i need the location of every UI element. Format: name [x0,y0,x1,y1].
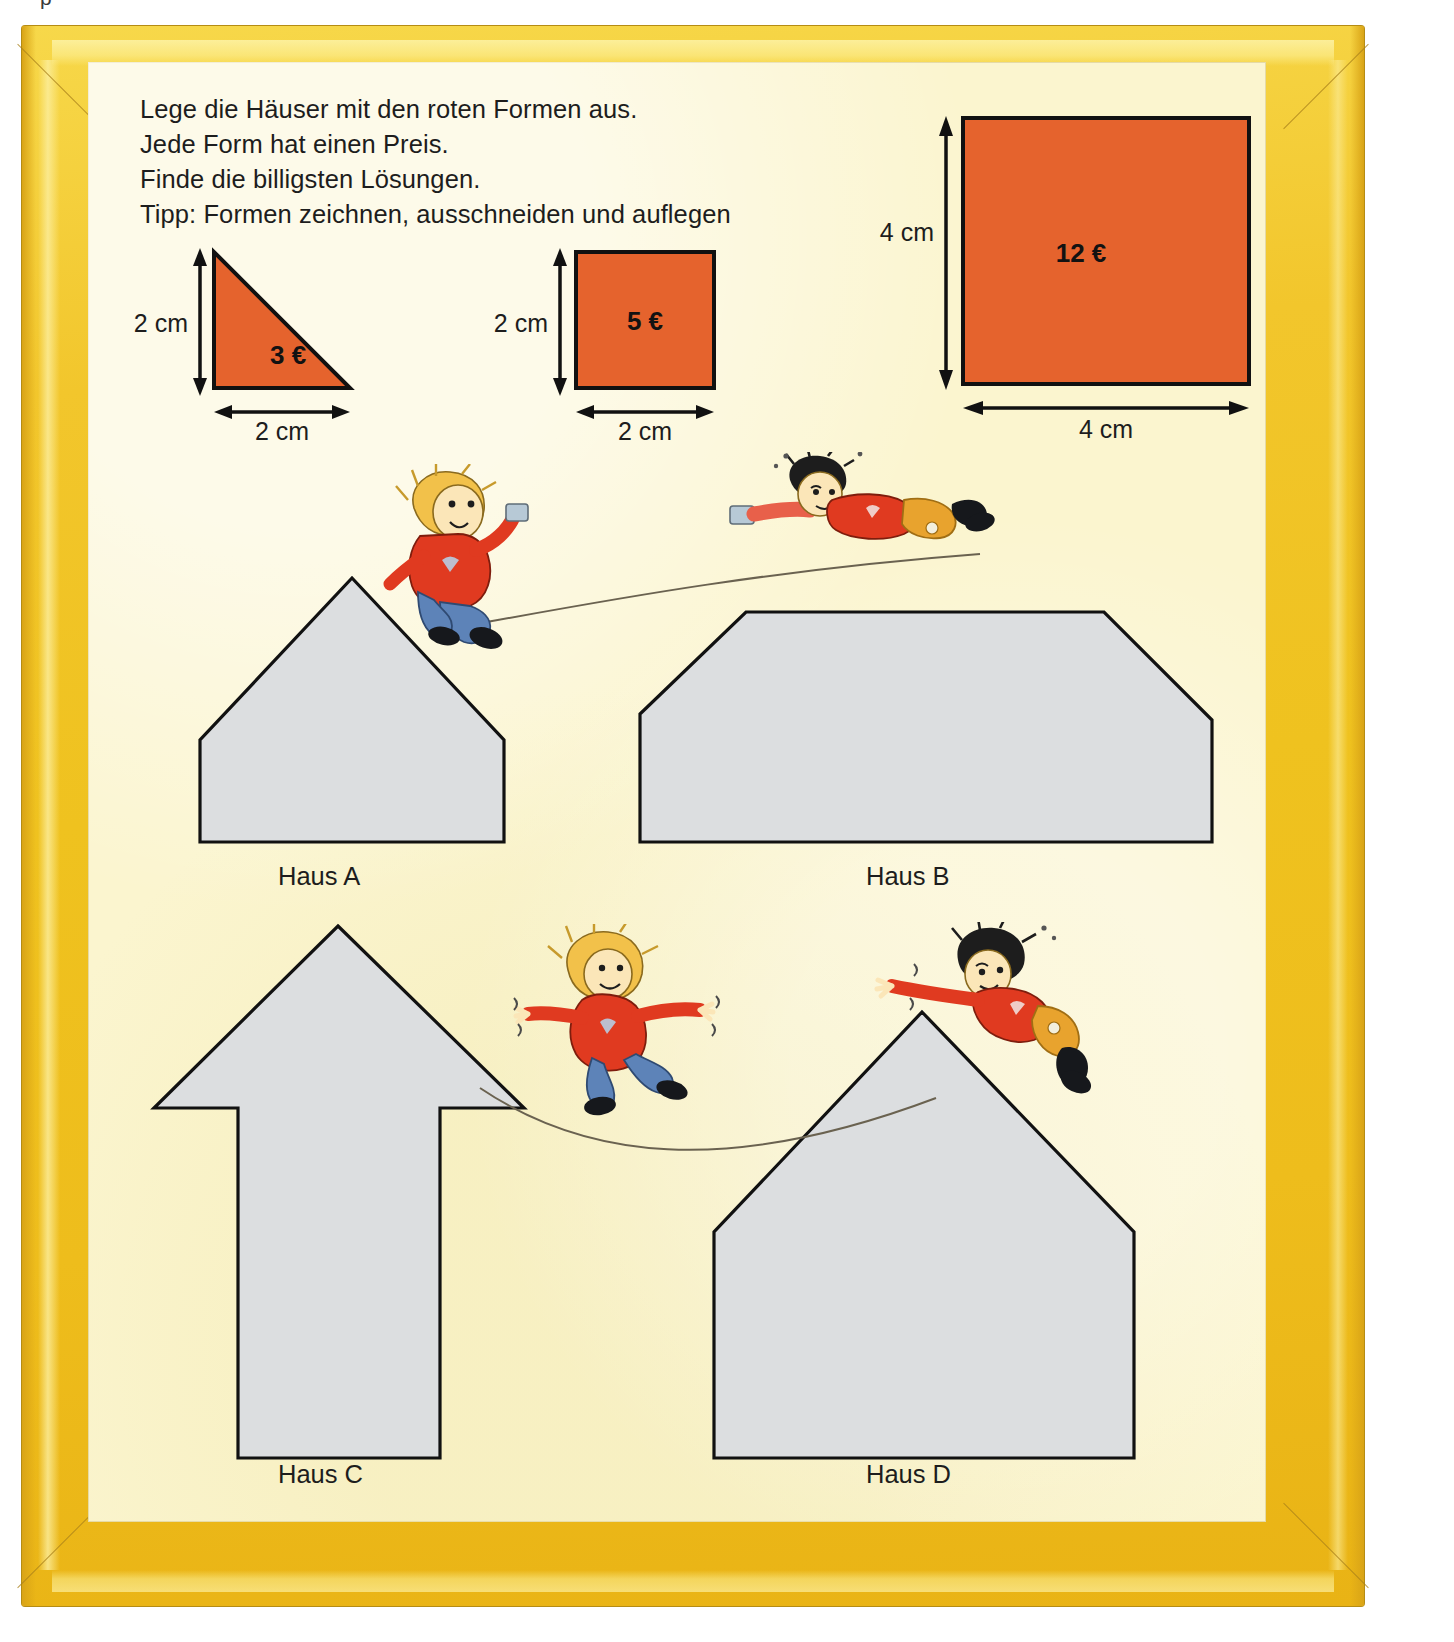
large-square-width-label: 4 cm [1079,415,1133,443]
large-square-price-label: 12 € [1056,238,1107,268]
large-square-height-label: 4 cm [880,218,934,246]
instruction-line-2: Jede Form hat einen Preis. [140,127,731,162]
instruction-line-3: Finde die billigsten Lösungen. [140,162,731,197]
top-cut-text: p [40,0,52,10]
kid-c-illustration [508,924,738,1124]
shape-legend-triangle: 2 cm 3 € 2 cm [98,242,398,442]
instruction-block: Lege die Häuser mit den roten Formen aus… [140,92,731,232]
triangle-height-label: 2 cm [134,309,188,337]
shape-legend-small-square: 2 cm 5 € 2 cm [458,242,758,442]
haus-b-label: Haus B [866,862,950,891]
frame-highlight-right [1328,60,1348,1570]
haus-d-label: Haus D [866,1460,951,1489]
instruction-line-4: Tipp: Formen zeichnen, ausschneiden und … [140,197,731,232]
shape-legend-large-square: 4 cm 12 € 4 cm [828,100,1248,445]
triangle-height-dimension [193,248,207,396]
frame-highlight-left [38,60,60,1570]
haus-c-figure [128,912,558,1472]
small-square-width-label: 2 cm [618,417,672,445]
top-cut-text-strip: p [0,0,1454,26]
kid-a-illustration [378,464,538,654]
worksheet-sheet: Lege die Häuser mit den roten Formen aus… [88,62,1266,1522]
frame-shadow-left [22,26,36,1606]
kid-b-illustration [728,452,998,572]
frame-shadow-right [1350,26,1364,1606]
triangle-width-label: 2 cm [255,417,309,445]
haus-a-label: Haus A [278,862,360,891]
instruction-line-1: Lege die Häuser mit den roten Formen aus… [140,92,731,127]
small-square-height-label: 2 cm [494,309,548,337]
small-square-height-dimension [553,248,567,396]
kid-d-illustration [848,922,1098,1122]
frame-highlight-bottom [52,1570,1334,1592]
haus-c-label: Haus C [278,1460,363,1489]
large-square-width-dimension [963,401,1249,415]
small-square-price-label: 5 € [627,306,663,336]
triangle-price-label: 3 € [270,340,306,370]
haus-b-shape [640,612,1212,842]
large-square-height-dimension [939,116,953,390]
worksheet-page: p Lege die Häuser mit den roten Formen a… [0,0,1454,1642]
haus-c-shape [154,926,524,1458]
